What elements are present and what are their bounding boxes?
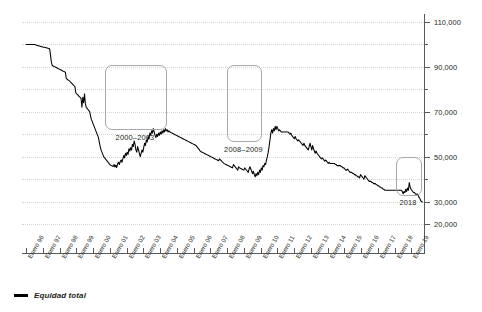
x-axis-tick	[395, 248, 396, 253]
y-axis-tick-major	[424, 157, 430, 158]
annotation-label-2018: 2018	[390, 198, 426, 207]
x-axis-tick	[328, 248, 329, 253]
legend-label-equidad-total: Equidad total	[34, 291, 86, 300]
y-axis-tick-major	[424, 22, 430, 23]
y-axis-tick-minor	[424, 89, 428, 90]
y-axis-tick-major	[424, 67, 430, 68]
annotation-label-2008-2009: 2008–2009	[212, 145, 275, 154]
annotation-box-2018	[396, 157, 422, 196]
annotation-box-2008-2009	[227, 65, 262, 142]
chart-container: 110,00090,00070,00050,00030,00020,000 En…	[0, 0, 482, 312]
y-axis-tick-minor	[424, 44, 428, 45]
series-equidad-total	[22, 14, 424, 253]
x-axis-tick	[261, 248, 262, 253]
y-axis-label: 110,000	[434, 18, 461, 27]
annotation-label-2000-2003: 2000–2003	[105, 133, 165, 142]
y-axis-label: 70,000	[434, 107, 457, 116]
y-axis-tick-minor	[424, 134, 428, 135]
y-axis-label: 50,000	[434, 152, 457, 161]
y-axis-label: 20,000	[434, 220, 457, 229]
legend-swatch-equidad-total	[14, 294, 28, 297]
y-axis-tick-major	[424, 112, 430, 113]
legend: Equidad total	[14, 291, 86, 300]
annotation-box-2000-2003	[105, 65, 167, 130]
y-axis-label: 90,000	[434, 62, 457, 71]
plot-area	[22, 14, 424, 253]
x-axis-tick	[60, 248, 61, 253]
y-axis-tick-major	[424, 224, 430, 225]
x-axis-tick	[194, 248, 195, 253]
y-axis-tick-minor	[424, 179, 428, 180]
y-axis-label: 30,000	[434, 197, 457, 206]
x-axis-tick	[127, 248, 128, 253]
